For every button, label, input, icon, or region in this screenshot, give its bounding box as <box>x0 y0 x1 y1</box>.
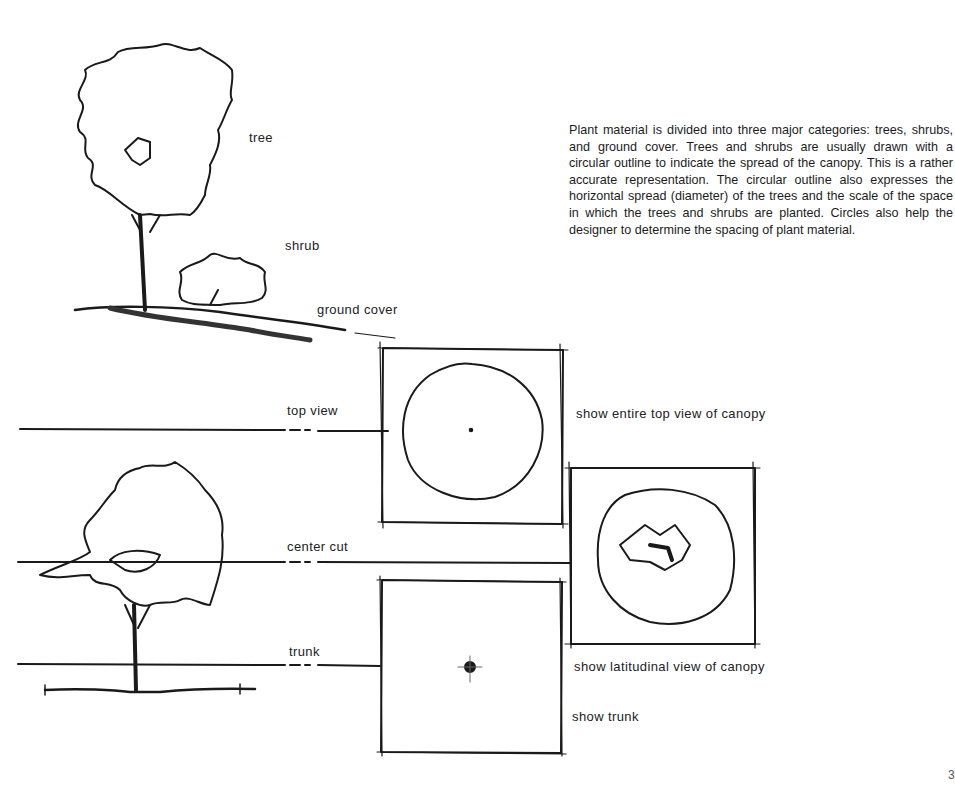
label-tree: tree <box>249 130 273 145</box>
tree-branch-gap <box>125 138 150 165</box>
label-shrub: shrub <box>285 238 320 253</box>
label-show-trunk: show trunk <box>572 709 639 724</box>
label-show-latitudinal: show latitudinal view of canopy <box>574 659 765 674</box>
top-view-box <box>382 348 563 524</box>
tree-canopy-sketch <box>78 44 233 215</box>
label-ground-cover: ground cover <box>317 302 398 317</box>
label-show-top-view: show entire top view of canopy <box>576 406 766 421</box>
label-top-view: top view <box>287 403 338 418</box>
center-cut-canopy <box>598 489 734 624</box>
lower-tree-canopy <box>40 462 223 606</box>
shrub-sketch <box>179 254 265 305</box>
label-center-cut: center cut <box>287 539 348 554</box>
description-paragraph: Plant material is divided into three maj… <box>569 122 953 238</box>
label-trunk: trunk <box>289 644 320 659</box>
page-number: 3 <box>948 768 955 782</box>
